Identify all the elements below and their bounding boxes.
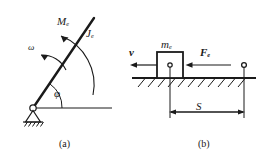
label-force-F: Fe [200, 47, 210, 59]
label-angle-phi: φ [54, 88, 60, 99]
velocity-arrowhead [130, 62, 137, 67]
moment-arc [61, 36, 94, 95]
label-angular-velocity-omega: ω [28, 43, 34, 52]
inclined-rod [33, 18, 94, 108]
panel-b-group [130, 52, 256, 118]
block-center-dot [168, 63, 172, 67]
force-arrowhead [186, 62, 193, 67]
caption-a: (a) [59, 138, 70, 149]
ground-hatching-b [138, 79, 245, 88]
panel-a-group [23, 18, 112, 127]
end-position-circle [242, 63, 247, 68]
caption-b: (b) [198, 138, 210, 149]
pivot-hatching [25, 122, 44, 127]
omega-arrowhead [41, 55, 49, 61]
label-inertia-J: Je [86, 28, 94, 40]
label-displacement-S: S [196, 101, 202, 112]
pivot-triangle [26, 111, 41, 123]
label-mass-m: me [161, 39, 172, 51]
mechanics-figure [0, 0, 270, 158]
label-velocity-v: v [129, 47, 134, 58]
label-moment-M: Me [57, 16, 69, 28]
